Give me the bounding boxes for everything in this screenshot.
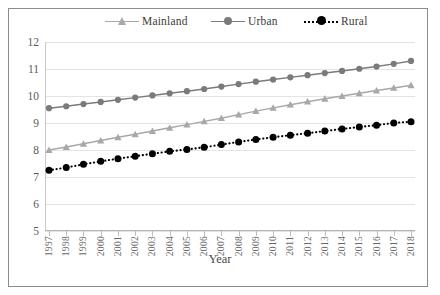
data-point-urban: [236, 81, 242, 87]
data-point-urban: [184, 88, 190, 94]
legend-swatch-urban: [211, 16, 245, 27]
data-point-urban: [98, 99, 104, 105]
legend-label-urban: Urban: [248, 15, 278, 27]
data-point-urban: [115, 97, 121, 103]
y-tick-label: 7: [33, 171, 39, 183]
data-point-rural: [97, 158, 104, 165]
data-point-urban: [167, 90, 173, 96]
data-point-urban: [270, 76, 276, 82]
data-point-rural: [201, 144, 208, 151]
data-point-rural: [408, 118, 415, 125]
data-point-rural: [356, 124, 363, 131]
data-point-rural: [252, 136, 259, 143]
legend-label-mainland: Mainland: [142, 15, 188, 27]
data-point-rural: [235, 138, 242, 145]
data-point-rural: [46, 167, 53, 174]
data-point-urban: [132, 95, 138, 101]
data-point-urban: [201, 86, 207, 92]
data-point-urban: [339, 68, 345, 74]
data-point-urban: [80, 101, 86, 107]
data-point-rural: [149, 150, 156, 157]
legend-swatch-mainland: [105, 16, 139, 27]
data-point-urban: [287, 74, 293, 80]
y-tick-label: 10: [28, 90, 40, 102]
data-point-urban: [63, 103, 69, 109]
data-point-rural: [132, 153, 139, 160]
legend-label-rural: Rural: [341, 15, 368, 27]
data-point-rural: [63, 164, 70, 171]
y-tick-label: 12: [28, 36, 40, 48]
data-point-rural: [287, 132, 294, 139]
data-point-urban: [408, 58, 414, 64]
data-point-rural: [304, 130, 311, 137]
data-point-urban: [391, 61, 397, 67]
data-point-rural: [114, 155, 121, 162]
data-point-urban: [356, 66, 362, 72]
data-point-urban: [322, 70, 328, 76]
data-point-urban: [149, 92, 155, 98]
data-point-rural: [321, 128, 328, 135]
y-tick-label: 6: [33, 198, 39, 210]
data-point-rural: [373, 122, 380, 129]
plot-area: 56789101112 1997199819992000200120022003…: [45, 42, 415, 231]
data-point-urban: [373, 63, 379, 69]
y-tick-label: 11: [28, 63, 39, 75]
data-point-rural: [339, 125, 346, 132]
x-axis-title: Year: [0, 252, 440, 267]
legend-item-rural: Rural: [304, 10, 368, 32]
chart-figure: Mainland Urban Rural 56789101112 1997199…: [0, 0, 440, 295]
y-tick-label: 8: [33, 144, 39, 156]
legend-item-mainland: Mainland: [105, 10, 188, 32]
data-point-urban: [46, 105, 52, 111]
data-point-rural: [270, 134, 277, 141]
data-point-rural: [166, 148, 173, 155]
data-point-urban: [218, 83, 224, 89]
data-point-rural: [80, 161, 87, 168]
y-tick-label: 5: [33, 225, 39, 237]
legend-swatch-rural: [304, 16, 338, 27]
data-point-rural: [390, 120, 397, 127]
data-point-rural: [218, 141, 225, 148]
legend-item-urban: Urban: [211, 10, 278, 32]
series-canvas: [45, 42, 415, 231]
data-point-rural: [183, 146, 190, 153]
data-point-urban: [253, 79, 259, 85]
data-point-urban: [304, 72, 310, 78]
chart-legend: Mainland Urban Rural: [8, 10, 428, 32]
y-tick-label: 9: [33, 117, 39, 129]
